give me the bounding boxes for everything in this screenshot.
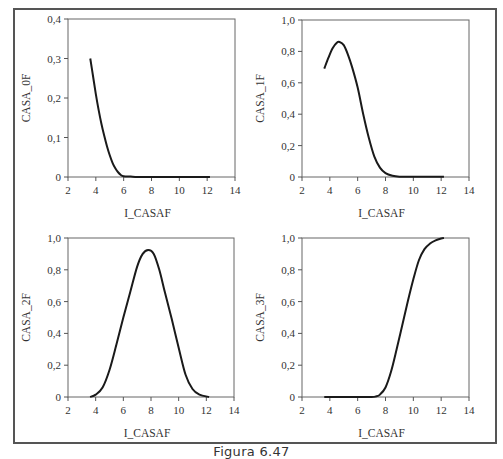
figure-caption: Figura 6.47 — [0, 444, 503, 459]
series-line — [90, 59, 210, 178]
x-tick-label: 6 — [121, 184, 127, 196]
y-axis-label: CASA_3F — [254, 293, 266, 342]
x-tick-label: 6 — [355, 184, 361, 196]
x-axis-label: I_CASAF — [124, 427, 171, 439]
y-tick-label: 0,2 — [281, 140, 295, 152]
y-tick-label: 1,0 — [281, 14, 295, 26]
x-tick-label: 8 — [383, 404, 389, 416]
x-tick-label: 2 — [299, 404, 305, 416]
x-tick-label: 8 — [383, 184, 389, 196]
x-tick-label: 12 — [436, 184, 447, 196]
x-tick-label: 8 — [148, 404, 154, 416]
chart-casa-1f: 00,20,40,60,81,02468101214I_CASAFCASA_1F — [254, 14, 475, 219]
x-tick-label: 2 — [65, 184, 71, 196]
y-tick-label: 0,8 — [47, 264, 61, 276]
y-tick-label: 0,8 — [281, 45, 295, 57]
x-tick-label: 6 — [121, 404, 127, 416]
y-tick-label: 0,3 — [47, 53, 61, 65]
chart-casa-2f: 00,20,40,60,81,02468101214I_CASAFCASA_2F — [20, 232, 240, 439]
chart-casa-3f: 00,20,40,60,81,02468101214I_CASAFCASA_3F — [254, 232, 475, 439]
y-tick-label: 0 — [56, 171, 62, 183]
x-axis-label: I_CASAF — [358, 207, 405, 219]
x-tick-label: 6 — [355, 404, 361, 416]
x-tick-label: 14 — [229, 404, 241, 416]
x-tick-label: 12 — [436, 404, 447, 416]
x-tick-label: 14 — [464, 184, 476, 196]
y-axis-label: CASA_2F — [20, 293, 32, 342]
y-tick-label: 0,4 — [281, 108, 295, 120]
plot-area — [302, 20, 469, 177]
x-axis-label: I_CASAF — [358, 427, 405, 439]
series-line — [90, 250, 209, 397]
x-tick-label: 8 — [149, 184, 155, 196]
x-tick-label: 4 — [93, 404, 99, 416]
y-tick-label: 0 — [290, 171, 296, 183]
plot-area — [302, 238, 469, 397]
x-tick-label: 2 — [299, 184, 305, 196]
y-tick-label: 0,8 — [281, 264, 295, 276]
x-tick-label: 10 — [174, 184, 186, 196]
y-tick-label: 0,6 — [47, 296, 61, 308]
series-line — [324, 42, 444, 177]
y-tick-label: 0 — [56, 391, 62, 403]
series-line — [324, 238, 444, 397]
x-tick-label: 10 — [408, 404, 420, 416]
y-tick-label: 0 — [290, 391, 296, 403]
y-tick-label: 0,2 — [47, 359, 61, 371]
x-tick-label: 12 — [202, 184, 213, 196]
y-tick-label: 0,4 — [47, 13, 61, 25]
x-tick-label: 14 — [464, 404, 476, 416]
y-tick-label: 0,1 — [47, 132, 61, 144]
y-axis-label: CASA_0F — [20, 74, 32, 123]
y-tick-label: 0,6 — [281, 77, 295, 89]
y-tick-label: 1,0 — [281, 232, 295, 244]
y-tick-label: 0,4 — [281, 327, 295, 339]
x-tick-label: 4 — [327, 184, 333, 196]
plot-area — [68, 19, 235, 177]
x-tick-label: 10 — [173, 404, 185, 416]
y-tick-label: 0,2 — [47, 92, 61, 104]
y-tick-label: 0,2 — [281, 359, 295, 371]
x-tick-label: 10 — [408, 184, 420, 196]
chart-casa-0f: 00,10,20,30,42468101214I_CASAFCASA_0F — [20, 13, 241, 219]
y-tick-label: 0,4 — [47, 327, 61, 339]
x-tick-label: 4 — [93, 184, 99, 196]
y-tick-label: 0,6 — [281, 296, 295, 308]
x-tick-label: 4 — [327, 404, 333, 416]
x-tick-label: 2 — [65, 404, 71, 416]
plot-area — [68, 238, 234, 397]
y-tick-label: 1,0 — [47, 232, 61, 244]
y-axis-label: CASA_1F — [254, 74, 266, 123]
x-axis-label: I_CASAF — [124, 207, 171, 219]
x-tick-label: 12 — [201, 404, 212, 416]
x-tick-label: 14 — [230, 184, 242, 196]
